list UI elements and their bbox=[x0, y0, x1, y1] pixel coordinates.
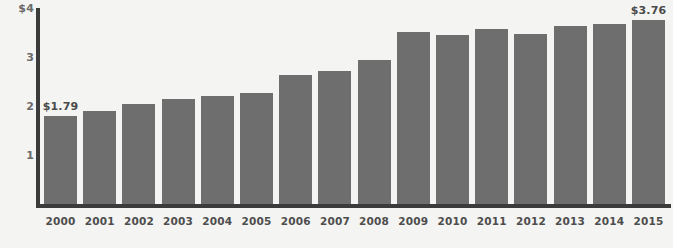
bar[interactable] bbox=[475, 29, 508, 204]
bar-chart: $4321 $1.79$3.76 20002001200220032004200… bbox=[0, 0, 673, 248]
bar[interactable] bbox=[279, 75, 312, 204]
x-tick-label: 2009 bbox=[391, 216, 435, 227]
bar-slot bbox=[279, 8, 312, 204]
x-tick-label: 2013 bbox=[548, 216, 592, 227]
bar[interactable] bbox=[83, 111, 116, 204]
x-tick-label: 2007 bbox=[313, 216, 357, 227]
bar[interactable] bbox=[632, 20, 665, 204]
bar-slot bbox=[397, 8, 430, 204]
bar-slot: $1.79 bbox=[44, 8, 77, 204]
x-tick-label: 2006 bbox=[274, 216, 318, 227]
x-tick-label: 2008 bbox=[352, 216, 396, 227]
x-tick-label: 2011 bbox=[470, 216, 514, 227]
x-tick-label: 2003 bbox=[156, 216, 200, 227]
x-tick-label: 2002 bbox=[117, 216, 161, 227]
bar-slot bbox=[593, 8, 626, 204]
y-tick-label: 3 bbox=[2, 52, 34, 63]
x-tick-label: 2001 bbox=[78, 216, 122, 227]
x-tick-label: 2000 bbox=[39, 216, 83, 227]
bar-slot bbox=[436, 8, 469, 204]
bar-slot bbox=[318, 8, 351, 204]
bar-slot bbox=[475, 8, 508, 204]
bar-slot bbox=[514, 8, 547, 204]
y-axis-tick-labels: $4321 bbox=[0, 0, 34, 248]
bar[interactable] bbox=[44, 116, 77, 204]
plot-area: $1.79$3.76 bbox=[40, 8, 671, 204]
bar[interactable] bbox=[240, 93, 273, 204]
bar-slot bbox=[554, 8, 587, 204]
bar[interactable] bbox=[397, 32, 430, 204]
x-tick-label: 2015 bbox=[627, 216, 671, 227]
bar[interactable] bbox=[122, 104, 155, 204]
x-tick-label: 2010 bbox=[431, 216, 475, 227]
bar-value-label: $1.79 bbox=[43, 101, 78, 112]
bar[interactable] bbox=[358, 60, 391, 204]
bar[interactable] bbox=[593, 24, 626, 204]
y-tick-label: 2 bbox=[2, 101, 34, 112]
x-axis-tick-labels: 2000200120022003200420052006200720082009… bbox=[40, 216, 671, 236]
bar[interactable] bbox=[201, 96, 234, 204]
x-tick-label: 2005 bbox=[235, 216, 279, 227]
bar[interactable] bbox=[436, 35, 469, 204]
bar[interactable] bbox=[162, 99, 195, 204]
bar-slot bbox=[201, 8, 234, 204]
bar-slot bbox=[162, 8, 195, 204]
x-axis-line bbox=[36, 204, 671, 208]
x-tick-label: 2012 bbox=[509, 216, 553, 227]
bar[interactable] bbox=[318, 71, 351, 204]
bar[interactable] bbox=[554, 26, 587, 204]
x-tick-label: 2014 bbox=[587, 216, 631, 227]
y-tick-label: $4 bbox=[2, 3, 34, 14]
bar-slot bbox=[122, 8, 155, 204]
y-tick-label: 1 bbox=[2, 150, 34, 161]
bar-slot bbox=[240, 8, 273, 204]
bar-slot bbox=[358, 8, 391, 204]
bar-slot bbox=[83, 8, 116, 204]
bar-value-label: $3.76 bbox=[631, 5, 666, 16]
bar[interactable] bbox=[514, 34, 547, 204]
bar-slot: $3.76 bbox=[632, 8, 665, 204]
x-tick-label: 2004 bbox=[195, 216, 239, 227]
